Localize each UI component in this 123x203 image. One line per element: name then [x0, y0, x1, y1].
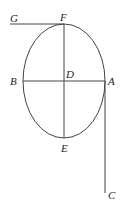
label-e: E [60, 142, 68, 154]
label-d: D [65, 68, 74, 80]
label-b: B [10, 75, 17, 87]
label-g: G [10, 12, 18, 24]
label-f: F [59, 11, 67, 23]
ellipse-diagram: G F B D A E C [0, 0, 123, 203]
label-a: A [107, 75, 115, 87]
label-c: C [108, 189, 116, 201]
